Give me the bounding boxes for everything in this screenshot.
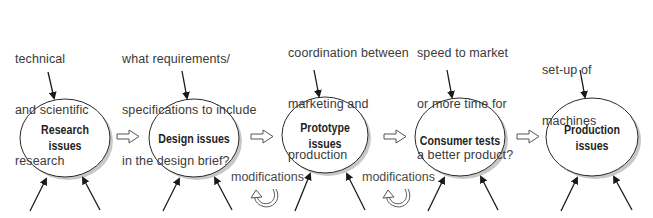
node-research-label: Research issues	[27, 122, 104, 154]
modifications-label-2: modifications	[362, 170, 435, 184]
node-prototype-label: Prototype issues	[287, 120, 364, 152]
node-production-label: Production issues	[554, 122, 631, 154]
hollow-right-arrow-icon	[517, 130, 539, 143]
node-design-label: Design issues	[152, 131, 237, 147]
input-note-research: technical and scientific research	[15, 17, 89, 204]
modifications-label-1: modifications	[231, 170, 304, 184]
product-development-diagram: technical and scientific research what r…	[0, 0, 653, 218]
node-consumer-label: Consumer tests	[413, 133, 507, 149]
